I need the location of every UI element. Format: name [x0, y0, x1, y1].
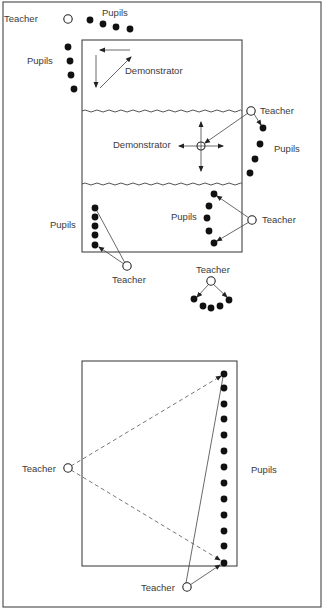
divider-upper: [82, 110, 242, 112]
divider-lower: [82, 183, 242, 185]
label-pupils-lower-mid: Pupils: [171, 211, 197, 222]
pupil-dot-icon: [200, 303, 207, 310]
label-teacher-lower-left: Teacher: [112, 274, 146, 285]
label-teacher-bottom: Teacher: [141, 582, 175, 593]
labels-group-top: TeacherPupilsPupilsDemonstratorTeacherPu…: [4, 7, 300, 285]
diagram-top: TeacherPupilsPupilsDemonstratorTeacherPu…: [4, 7, 300, 311]
pupil-dot-icon: [206, 203, 213, 210]
pupil-dot-icon: [92, 214, 99, 221]
teacher-marker-icon: [64, 15, 72, 23]
label-teacher-topleft: Teacher: [4, 13, 38, 24]
pupil-dot-icon: [221, 528, 228, 535]
pupil-dot-icon: [191, 296, 198, 303]
label-pupils-right: Pupils: [251, 464, 277, 475]
pupil-dot-icon: [221, 385, 228, 392]
pupil-dot-icon: [206, 228, 213, 235]
label-demonstrator-top: Demonstrator: [125, 65, 183, 76]
label-teacher-bottom-group: Teacher: [196, 264, 230, 275]
label-demonstrator-mid: Demonstrator: [113, 139, 171, 150]
pupil-dot-icon: [221, 416, 228, 423]
teacher-marker-icon: [207, 277, 215, 285]
hall-box-bottom: [82, 361, 237, 566]
pupil-dot-icon: [87, 17, 94, 24]
page-frame: [3, 2, 321, 607]
pupils-row-bottom: [221, 371, 228, 567]
teachers-group-bottom: [64, 464, 191, 591]
pupil-dot-icon: [211, 240, 218, 247]
pupil-dot-icon: [211, 191, 218, 198]
pupil-dot-icon: [221, 401, 228, 408]
pupil-dot-icon: [217, 303, 224, 310]
teacher-marker-icon: [248, 216, 256, 224]
pupil-dot-icon: [204, 215, 211, 222]
pupil-dot-icon: [71, 86, 78, 93]
pupil-dot-icon: [221, 371, 228, 378]
pupil-dot-icon: [221, 512, 228, 519]
label-teacher-mid-right: Teacher: [260, 105, 294, 116]
diagram-bottom: TeacherPupilsTeacher: [22, 361, 277, 593]
label-pupils-mid-right: Pupils: [274, 143, 300, 154]
teaching-positions-diagram: TeacherPupilsPupilsDemonstratorTeacherPu…: [0, 0, 324, 612]
pupil-dot-icon: [92, 205, 99, 212]
pupil-dot-icon: [127, 26, 134, 33]
pupil-dot-icon: [221, 543, 228, 550]
label-teacher-lower-right: Teacher: [262, 214, 296, 225]
pupil-dot-icon: [92, 242, 99, 249]
teacher-sightlines-bottom: [71, 376, 223, 585]
pupil-dot-icon: [92, 223, 99, 230]
pupil-dot-icon: [113, 24, 120, 31]
pupil-dot-icon: [92, 232, 99, 239]
pupils-group-top: [65, 17, 267, 312]
label-pupils-left: Pupils: [27, 55, 53, 66]
pupil-dot-icon: [67, 58, 74, 65]
label-pupils-lower-left: Pupils: [50, 219, 76, 230]
pupil-dot-icon: [221, 480, 228, 487]
demonstrator-crosshair: [179, 113, 248, 171]
pupil-dot-icon: [221, 432, 228, 439]
teacher-marker-icon: [247, 107, 255, 115]
pupil-dot-icon: [100, 21, 107, 28]
teacher-marker-icon: [183, 583, 191, 591]
pupil-dot-icon: [221, 560, 228, 567]
pupil-dot-icon: [247, 170, 254, 177]
pupil-dot-icon: [257, 141, 264, 148]
pupil-dot-icon: [68, 72, 75, 79]
pupil-dot-icon: [221, 464, 228, 471]
teacher-marker-icon: [64, 464, 72, 472]
label-teacher-left: Teacher: [22, 463, 56, 474]
pupil-dot-icon: [252, 156, 259, 163]
pupil-dot-icon: [260, 125, 267, 132]
pupil-dot-icon: [226, 297, 233, 304]
pupil-dot-icon: [208, 305, 215, 312]
label-pupils-top: Pupils: [102, 7, 128, 18]
pupil-dot-icon: [221, 496, 228, 503]
teacher-marker-icon: [123, 262, 131, 270]
pupil-dot-icon: [65, 44, 72, 51]
pupil-dot-icon: [221, 448, 228, 455]
labels-group-bottom: TeacherPupilsTeacher: [22, 463, 277, 593]
